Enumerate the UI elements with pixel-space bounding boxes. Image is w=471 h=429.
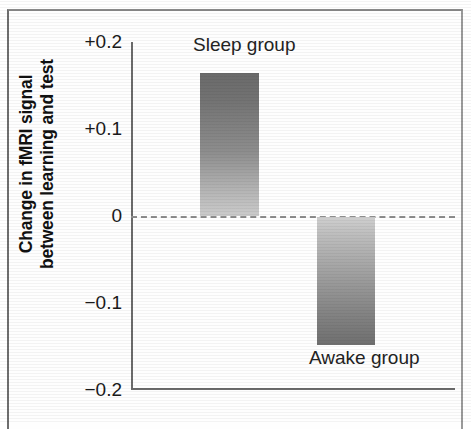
bar-label-sleep-group: Sleep group [193,34,295,56]
plot-area: +0.2 +0.1 0 −0.1 −0.2 Sleep group Awake … [131,42,455,390]
y-tick-label-3: −0.1 [84,292,122,314]
bar-label-awake-group: Awake group [309,347,420,369]
bar-awake-group[interactable] [317,217,375,345]
x-axis-line [131,388,455,390]
bar-sleep-group[interactable] [200,73,259,216]
y-tick-label-1: +0.1 [84,118,122,140]
y-tick-label-4: −0.2 [84,379,122,401]
y-tick-label-2: 0 [111,205,122,227]
y-tick-label-0: +0.2 [84,31,122,53]
zero-baseline [131,216,455,218]
